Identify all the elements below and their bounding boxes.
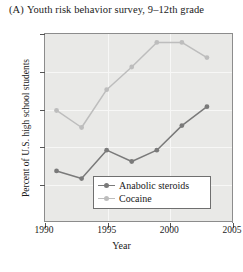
data-point	[129, 159, 134, 164]
x-axis-title: Year	[0, 240, 243, 251]
data-point	[179, 40, 184, 45]
data-point	[205, 55, 210, 60]
data-point	[205, 104, 210, 109]
figure-title-text: Youth risk behavior survey, 9–12th grade	[27, 4, 204, 15]
data-point	[129, 65, 134, 70]
x-axis-tick-label: 1995	[97, 225, 116, 235]
y-axis-title: Percent of U.S. high school students	[21, 38, 31, 218]
panel-letter: (A)	[9, 4, 24, 15]
x-axis-tick-label: 2005	[223, 225, 242, 235]
series-line-cocaine	[57, 42, 207, 127]
figure-panel-a: (A)Youth risk behavior survey, 9–12th gr…	[0, 0, 243, 272]
legend-label-cocaine: Cocaine	[119, 193, 152, 204]
x-axis-tick-label: 1990	[35, 225, 54, 235]
legend-item-anabolic-steroids: Anabolic steroids	[98, 179, 206, 192]
data-point	[104, 87, 109, 92]
figure-title: (A)Youth risk behavior survey, 9–12th gr…	[9, 3, 237, 16]
y-axis-title-container: Percent of U.S. high school students	[14, 33, 26, 222]
series-line-anabolic-steroids	[57, 107, 207, 179]
data-point	[54, 169, 59, 174]
data-point	[79, 176, 84, 181]
legend-marker-swatch	[104, 183, 109, 188]
legend-key-anabolic-steroids	[98, 181, 115, 191]
data-point	[154, 40, 159, 45]
data-point	[79, 125, 84, 130]
legend-marker-swatch	[104, 196, 109, 201]
data-point	[154, 148, 159, 153]
legend-label-anabolic-steroids: Anabolic steroids	[119, 180, 189, 191]
legend-item-cocaine: Cocaine	[98, 192, 206, 205]
legend-key-cocaine	[98, 194, 115, 204]
data-point	[104, 148, 109, 153]
chart-legend: Anabolic steroids Cocaine	[93, 176, 211, 209]
x-axis-tick-label: 2000	[160, 225, 179, 235]
data-point	[179, 123, 184, 128]
data-point	[54, 108, 59, 113]
